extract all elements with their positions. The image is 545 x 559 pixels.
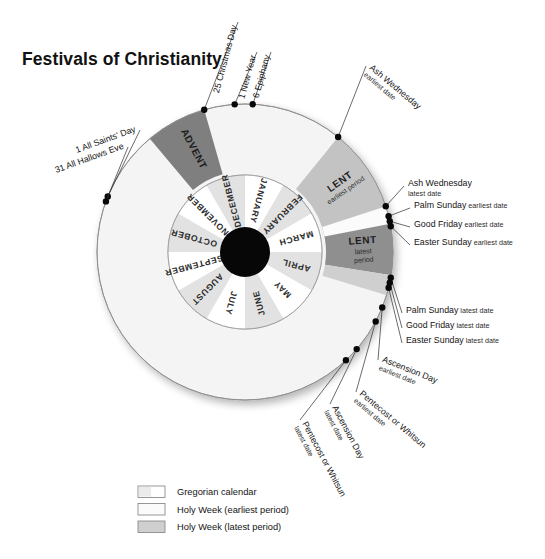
legend-label: Holy Week (latest period) [177, 522, 281, 532]
marker-dot[interactable] [385, 285, 391, 291]
marker-label-easter-sunday-latest: Easter Sunday latest date [406, 335, 499, 345]
marker-leader-line [389, 208, 410, 216]
marker-label-main: Palm Sunday earliest date [414, 200, 507, 210]
marker-leader-line [389, 288, 402, 343]
marker-dot[interactable] [379, 304, 385, 310]
season-sub: latest [355, 247, 372, 255]
marker-dot[interactable] [372, 318, 378, 324]
marker-label-main: Easter Sunday earliest date [414, 237, 513, 247]
marker-label-main: Good Friday earliest date [414, 219, 504, 229]
marker-label-main: Easter Sunday latest date [406, 335, 499, 345]
marker-label-main: Pentecost or Whitsun [358, 388, 429, 449]
marker-label-sub: latest date [454, 321, 489, 330]
legend-label: Holy Week (earliest period) [177, 505, 289, 515]
marker-dot[interactable] [250, 101, 256, 107]
diagram-stage: Festivals of Christianity JANUARYFEBRUAR… [0, 0, 545, 559]
marker-leader-line [391, 226, 410, 245]
marker-label-sub: earliest date [472, 238, 513, 247]
legend-swatch [138, 521, 165, 533]
season-name: LENT [348, 234, 377, 247]
marker-label-main: Good Friday latest date [406, 320, 490, 330]
marker-leader-line [390, 283, 402, 328]
marker-dot[interactable] [383, 203, 389, 209]
marker-label-palm-sunday-latest: Palm Sunday latest date [406, 305, 494, 315]
marker-leader-line [386, 186, 404, 206]
marker-label-ash-wednesday-latest: Ash Wednesdaylatest date [408, 178, 472, 198]
legend-swatch-shade [139, 487, 151, 497]
marker-label-sub: latest date [458, 306, 493, 315]
page-title: Festivals of Christianity [22, 49, 222, 69]
marker-dot[interactable] [353, 346, 359, 352]
marker-label-sub: earliest date [466, 201, 507, 210]
marker-label-sub: latest date [408, 189, 441, 198]
marker-label-good-friday-earliest: Good Friday earliest date [414, 219, 504, 229]
legend-label: Gregorian calendar [177, 487, 257, 497]
marker-label-palm-sunday-earliest: Palm Sunday earliest date [414, 200, 507, 210]
festivals-of-christianity-diagram: Festivals of Christianity JANUARYFEBRUAR… [0, 0, 545, 559]
marker-dot[interactable] [231, 101, 237, 107]
legend: Gregorian calendarHoly Week (earliest pe… [138, 486, 289, 533]
marker-dot[interactable] [103, 198, 109, 204]
marker-label-good-friday-latest: Good Friday latest date [406, 320, 490, 330]
marker-label-main: Ash Wednesday [408, 178, 472, 188]
marker-label-sub: latest date [464, 336, 499, 345]
marker-label-pentecost-earliest: Pentecost or Whitsunearliest date [352, 388, 428, 456]
marker-dot[interactable] [335, 134, 341, 140]
marker-label-easter-sunday-earliest: Easter Sunday earliest date [414, 237, 513, 247]
marker-dot[interactable] [201, 107, 207, 113]
legend-swatch [138, 504, 165, 516]
hub-circle [220, 227, 270, 277]
marker-label-sub: earliest date [462, 220, 503, 229]
marker-label-ascension-day-earliest: Ascension Dayearliest date [378, 354, 440, 394]
marker-dot[interactable] [343, 357, 349, 363]
marker-dot[interactable] [388, 223, 394, 229]
marker-label-main: Palm Sunday latest date [406, 305, 494, 315]
marker-label-ash-wednesday-earliest: Ash Wednesdayearliest date [362, 62, 424, 118]
